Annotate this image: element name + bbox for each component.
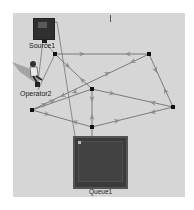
source-label: Source1 [29, 42, 55, 50]
queue-marker-icon [78, 141, 81, 144]
path-node [30, 108, 34, 112]
path-arrows [41, 52, 169, 126]
path-node [171, 105, 175, 109]
queue-inner [78, 141, 123, 182]
path-node [147, 52, 151, 56]
queue-label: Queue1 [89, 188, 112, 196]
source-object[interactable] [33, 18, 55, 40]
queue-object[interactable] [73, 136, 128, 189]
path-node [90, 125, 94, 129]
source-flag-icon [38, 22, 47, 28]
path-node [53, 52, 57, 56]
path-node [90, 87, 94, 91]
operator-label: Operator2 [20, 90, 52, 98]
operator-object[interactable] [28, 62, 48, 88]
